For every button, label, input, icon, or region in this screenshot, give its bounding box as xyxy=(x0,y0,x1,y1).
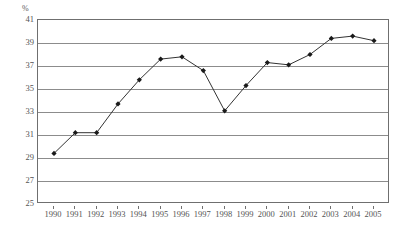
y-axis-unit-label: % xyxy=(22,4,29,13)
y-axis-tick-label: 39 xyxy=(8,38,34,47)
data-point-marker: 2001: 37.1 xyxy=(286,62,291,67)
y-axis-tick-label: 25 xyxy=(8,199,34,208)
data-point-marker: 1996: 37.8 xyxy=(179,54,184,59)
y-axis-tick-label: 29 xyxy=(8,153,34,162)
data-point-marker: 2005: 39.2 xyxy=(371,38,376,43)
y-axis-tick-label: 37 xyxy=(8,61,34,70)
y-axis-tick-label: 31 xyxy=(8,130,34,139)
y-axis-tick-label: 27 xyxy=(8,176,34,185)
x-axis-tick-label: 2005 xyxy=(358,209,388,219)
data-point-marker: 1997: 36.6 xyxy=(201,68,206,73)
y-axis-tick-label: 35 xyxy=(8,84,34,93)
x-axis-ticks: 1990199119921993199419951996199719981999… xyxy=(37,209,389,225)
series-line xyxy=(54,36,374,153)
plot-area: 1990: 29.41991: 31.21992: 31.21993: 33.7… xyxy=(37,19,389,203)
y-axis-tick-label: 33 xyxy=(8,107,34,116)
line-chart: % 1990: 29.41991: 31.21992: 31.21993: 33… xyxy=(0,0,406,238)
data-series: 1990: 29.41991: 31.21992: 31.21993: 33.7… xyxy=(38,20,390,204)
data-point-marker: 2004: 39.6 xyxy=(350,34,355,39)
y-axis-tick-label: 41 xyxy=(8,15,34,24)
